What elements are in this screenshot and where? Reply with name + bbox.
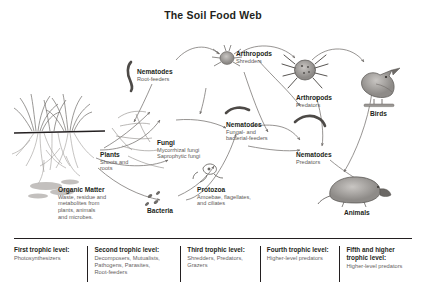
node-label-arthropods-shredders: Arthropods Shredders bbox=[236, 50, 272, 64]
legend-divider-line bbox=[14, 238, 412, 239]
node-label-bacteria: Bacteria bbox=[147, 207, 173, 215]
soil-surface-line bbox=[14, 131, 105, 133]
trophic-level-title: First trophic level: bbox=[14, 246, 83, 254]
trophic-level-title: Second trophic level: bbox=[94, 246, 176, 254]
trophic-levels-legend: First trophic level: Photosynthesizers S… bbox=[14, 243, 412, 286]
node-heading: Fungi bbox=[157, 139, 200, 147]
node-heading: Birds bbox=[370, 110, 387, 118]
trophic-level-desc: Shredders, Predators, Grazers bbox=[187, 255, 256, 270]
node-label-nematodes-root-feeders: Nematodes Root-feeders bbox=[137, 68, 173, 82]
node-heading: Nematodes bbox=[226, 121, 268, 129]
trophic-level-1: First trophic level: Photosynthesizers bbox=[14, 246, 87, 277]
node-subtext: Waste, residue and metabolites from plan… bbox=[58, 194, 128, 220]
node-subtext: Mycorrhizal fungi Saprophytic fungi bbox=[157, 147, 200, 160]
column-divider bbox=[339, 246, 340, 282]
trophic-level-title: Fourth trophic level: bbox=[267, 246, 336, 254]
node-label-arthropods-predators: Arthropods Predators bbox=[296, 94, 332, 108]
trophic-level-title: Third trophic level: bbox=[187, 246, 256, 254]
grass-plant-illustration bbox=[14, 94, 92, 131]
column-divider bbox=[87, 246, 88, 282]
node-label-nematodes-fungal-bacterial: Nematodes Fungal- and bacterial-feeders bbox=[226, 121, 268, 142]
trophic-level-desc: Higher-level predators bbox=[267, 255, 336, 262]
node-heading: Animals bbox=[344, 209, 370, 217]
mole-illustration bbox=[318, 177, 391, 207]
trophic-level-desc: Higher-level predators bbox=[346, 263, 408, 270]
node-subtext: Shoots and roots bbox=[100, 159, 128, 172]
node-heading: Nematodes bbox=[296, 151, 332, 159]
trophic-level-title: Fifth and higher trophic level: bbox=[346, 246, 408, 262]
node-heading: Arthropods bbox=[236, 50, 272, 58]
trophic-level-4: Fourth trophic level: Higher-level preda… bbox=[260, 246, 340, 277]
trophic-level-5: Fifth and higher trophic level: Higher-l… bbox=[339, 246, 412, 277]
node-heading: Plants bbox=[100, 151, 128, 159]
node-subtext: Predators bbox=[296, 102, 332, 109]
node-heading: Protozoa bbox=[197, 186, 251, 194]
trophic-level-desc: Photosynthesizers bbox=[14, 255, 83, 262]
node-subtext: Shredders bbox=[236, 58, 272, 65]
trophic-level-2: Second trophic level: Decomposers, Mutua… bbox=[87, 246, 180, 277]
node-subtext: Root-feeders bbox=[137, 76, 173, 83]
node-subtext: Predators bbox=[296, 159, 332, 166]
bird-illustration bbox=[362, 68, 401, 107]
node-label-animals: Animals bbox=[344, 209, 370, 217]
arthropod-spider-icon bbox=[282, 55, 328, 88]
node-heading: Nematodes bbox=[137, 68, 173, 76]
node-label-birds: Birds bbox=[370, 110, 387, 118]
node-subtext: Fungal- and bacterial-feeders bbox=[226, 129, 268, 142]
trophic-level-3: Third trophic level: Shredders, Predator… bbox=[180, 246, 260, 277]
node-subtext: Amoebae, flagellates, and ciliates bbox=[197, 194, 251, 207]
plant-roots-illustration bbox=[12, 133, 94, 184]
node-label-fungi: Fungi Mycorrhizal fungi Saprophytic fung… bbox=[157, 139, 200, 160]
trophic-level-desc: Decomposers, Mutualists, Pathogens, Para… bbox=[94, 255, 176, 277]
node-label-protozoa: Protozoa Amoebae, flagellates, and cilia… bbox=[197, 186, 251, 207]
node-label-nematodes-predators: Nematodes Predators bbox=[296, 151, 332, 165]
column-divider bbox=[180, 246, 181, 282]
column-divider bbox=[260, 246, 261, 282]
node-label-plants: Plants Shoots and roots bbox=[100, 151, 128, 172]
node-heading: Organic Matter bbox=[58, 186, 128, 194]
soil-food-web-diagram: The Soil Food Web bbox=[0, 0, 426, 294]
node-label-organic-matter: Organic Matter Waste, residue and metabo… bbox=[58, 186, 128, 220]
protozoa-amoeba-icon bbox=[193, 164, 223, 182]
node-heading: Arthropods bbox=[296, 94, 332, 102]
node-heading: Bacteria bbox=[147, 207, 173, 215]
